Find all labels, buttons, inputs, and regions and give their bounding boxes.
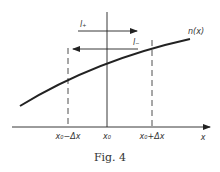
tick-label-center: x₀ xyxy=(102,132,112,141)
tick-label-right: x₀+Δx xyxy=(139,132,165,141)
diagram-figure: l₊ l₋ n(x) x₀−Δx x₀ x₀+Δx x Fig. 4 xyxy=(0,0,220,172)
tick-label-left: x₀−Δx xyxy=(55,132,81,141)
axis-label: x xyxy=(200,133,206,142)
l-minus-label: l₋ xyxy=(133,38,139,47)
figure-caption: Fig. 4 xyxy=(94,151,126,164)
curve-label: n(x) xyxy=(188,27,204,36)
l-plus-label: l₊ xyxy=(80,20,86,29)
